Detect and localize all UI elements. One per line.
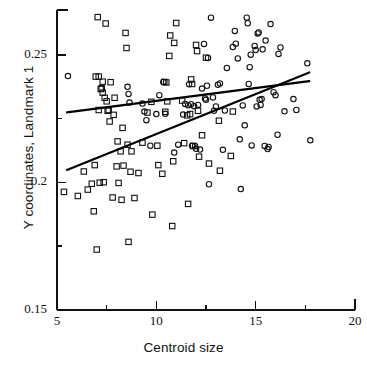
data-point-square bbox=[228, 153, 233, 158]
data-point-square bbox=[171, 159, 176, 164]
y-axis-title: Y coordinates, Landmark 1 bbox=[21, 28, 36, 268]
data-point-circle bbox=[282, 109, 287, 114]
data-point-circle bbox=[125, 84, 130, 89]
x-axis-tick-label: 20 bbox=[330, 313, 367, 329]
data-point-square bbox=[85, 187, 90, 192]
data-point-circle bbox=[172, 150, 177, 155]
data-point-square bbox=[116, 180, 121, 185]
y-axis-tick-label: 0.15 bbox=[0, 301, 47, 317]
data-point-circle bbox=[247, 64, 252, 69]
data-point-square bbox=[119, 197, 124, 202]
data-point-circle bbox=[205, 55, 210, 60]
data-point-square bbox=[89, 181, 94, 186]
data-point-circle bbox=[275, 132, 280, 137]
data-point-circle bbox=[263, 38, 268, 43]
data-point-circle bbox=[235, 56, 240, 61]
data-point-circle bbox=[175, 142, 180, 147]
data-point-circle bbox=[230, 44, 235, 49]
y-axis-tick-label: 0.2 bbox=[0, 173, 47, 189]
data-point-circle bbox=[244, 15, 249, 20]
data-point-circle bbox=[220, 147, 225, 152]
data-point-square bbox=[217, 168, 222, 173]
data-point-circle bbox=[308, 138, 313, 143]
data-point-circle bbox=[204, 83, 209, 88]
data-point-square bbox=[95, 14, 100, 19]
x-axis-tick-label: 10 bbox=[131, 313, 181, 329]
data-point-square bbox=[168, 33, 173, 38]
data-point-square bbox=[230, 109, 235, 114]
data-point-square bbox=[185, 201, 190, 206]
data-point-square bbox=[156, 162, 161, 167]
y-axis-tick-label: 0.25 bbox=[0, 46, 47, 62]
data-point-circle bbox=[180, 112, 185, 117]
data-point-square bbox=[167, 53, 172, 58]
data-point-square bbox=[75, 193, 80, 198]
data-point-circle bbox=[65, 73, 70, 78]
data-point-square bbox=[121, 163, 126, 168]
data-point-circle bbox=[208, 15, 213, 20]
data-point-square bbox=[132, 195, 137, 200]
data-point-square bbox=[150, 212, 155, 217]
scatter-plot-figure: Y coordinates, Landmark 1 Centroid size … bbox=[0, 0, 367, 370]
data-point-circle bbox=[242, 123, 247, 128]
data-point-circle bbox=[305, 61, 310, 66]
x-axis-title: Centroid size bbox=[0, 340, 367, 355]
data-point-square bbox=[103, 21, 108, 26]
data-point-square bbox=[129, 149, 134, 154]
data-point-square bbox=[123, 30, 128, 35]
data-point-square bbox=[155, 143, 160, 148]
data-point-square bbox=[108, 79, 113, 84]
data-point-square bbox=[199, 133, 204, 138]
data-point-square bbox=[94, 247, 99, 252]
data-point-circle bbox=[232, 28, 237, 33]
data-point-circle bbox=[249, 143, 254, 148]
x-axis-tick-label: 15 bbox=[231, 313, 281, 329]
data-point-circle bbox=[278, 45, 283, 50]
data-point-circle bbox=[201, 41, 206, 46]
data-point-square bbox=[61, 189, 66, 194]
data-point-square bbox=[136, 170, 141, 175]
data-point-square bbox=[194, 48, 199, 53]
data-point-circle bbox=[248, 52, 253, 57]
data-point-square bbox=[193, 42, 198, 47]
data-point-square bbox=[91, 209, 96, 214]
data-point-circle bbox=[222, 108, 227, 113]
data-point-square bbox=[92, 162, 97, 167]
data-point-circle bbox=[157, 93, 162, 98]
data-point-circle bbox=[260, 47, 265, 52]
data-point-circle bbox=[245, 21, 250, 26]
data-point-square bbox=[195, 108, 200, 113]
data-point-circle bbox=[163, 111, 168, 116]
data-point-square bbox=[112, 95, 117, 100]
data-point-square bbox=[206, 161, 211, 166]
data-point-circle bbox=[126, 91, 131, 96]
data-point-square bbox=[172, 40, 177, 45]
data-point-circle bbox=[291, 96, 296, 101]
data-point-circle bbox=[240, 103, 245, 108]
data-point-square bbox=[216, 118, 221, 123]
data-point-circle bbox=[224, 65, 229, 70]
data-point-square bbox=[114, 164, 119, 169]
data-point-circle bbox=[268, 21, 273, 26]
data-point-square bbox=[128, 169, 133, 174]
data-point-square bbox=[126, 239, 131, 244]
data-point-circle bbox=[144, 118, 149, 123]
data-point-square bbox=[110, 195, 115, 200]
data-point-circle bbox=[148, 143, 153, 148]
data-point-square bbox=[104, 99, 109, 104]
data-point-square bbox=[120, 125, 125, 130]
data-point-circle bbox=[237, 137, 242, 142]
data-point-square bbox=[124, 45, 129, 50]
data-point-circle bbox=[294, 107, 299, 112]
data-point-square bbox=[160, 171, 165, 176]
data-point-circle bbox=[233, 41, 238, 46]
data-point-square bbox=[170, 223, 175, 228]
data-point-circle bbox=[276, 51, 281, 56]
data-point-circle bbox=[238, 186, 243, 191]
data-point-square bbox=[81, 169, 86, 174]
data-point-circle bbox=[154, 111, 159, 116]
data-point-square bbox=[115, 139, 120, 144]
data-point-square bbox=[196, 154, 201, 159]
data-point-square bbox=[174, 20, 179, 25]
data-point-square bbox=[181, 140, 186, 145]
